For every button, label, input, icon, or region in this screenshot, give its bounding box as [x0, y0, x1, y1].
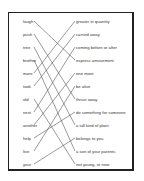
definition-label: do something for someone [76, 110, 126, 115]
definition-label: a tall kind of plant [76, 123, 109, 128]
definition-label: belongs to you [76, 136, 103, 141]
word-label: laugh [23, 19, 33, 24]
word-label: push [23, 32, 32, 37]
word-label: took [23, 84, 31, 89]
match-line [34, 34, 75, 86]
word-label: brother [23, 58, 36, 63]
match-line [34, 47, 75, 125]
definition-label: greater in quantity [76, 19, 110, 24]
match-line [34, 34, 75, 99]
match-line [34, 138, 75, 164]
match-line [34, 99, 75, 164]
definition-label: coming before or after [76, 45, 117, 50]
word-label: your [23, 162, 31, 167]
word-label: next [23, 110, 31, 115]
word-label: help [23, 136, 31, 141]
match-line [34, 86, 75, 151]
match-line [34, 112, 75, 138]
definition-label: thrust away [76, 97, 97, 102]
definition-label: carried away [76, 32, 100, 37]
definition-label: be alive [76, 84, 90, 89]
definition-label: express amusement [76, 58, 114, 63]
definition-label: not young, or new [76, 162, 109, 167]
match-line [34, 73, 75, 125]
word-label: tree [23, 45, 30, 50]
word-label: old [23, 97, 29, 102]
match-line [34, 21, 75, 60]
match-line [34, 21, 75, 73]
word-label: live [23, 149, 29, 154]
match-line [34, 47, 75, 112]
matching-lines [0, 0, 144, 181]
definition-label: one more [76, 71, 94, 76]
word-label: more [23, 71, 33, 76]
word-label: another [23, 123, 37, 128]
match-line [34, 60, 75, 151]
definition-label: a son of your parents [76, 149, 115, 154]
